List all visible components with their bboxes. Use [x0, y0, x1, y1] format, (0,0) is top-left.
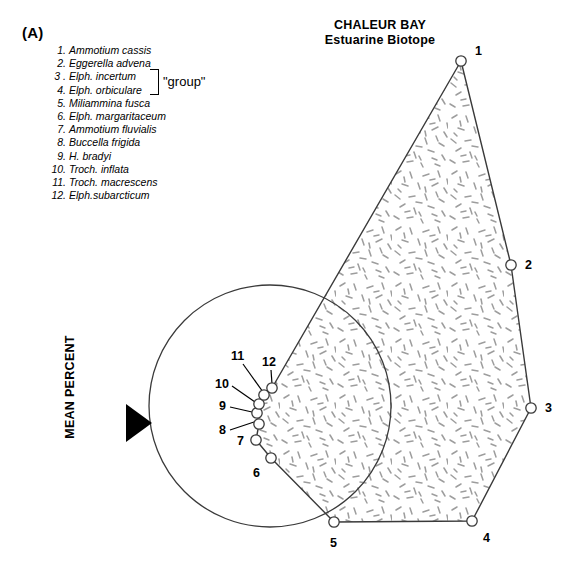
data-point-label: 12: [262, 355, 276, 369]
leader-line: [232, 386, 255, 402]
data-point-label: 5: [330, 536, 337, 550]
data-point-label: 8: [219, 423, 226, 437]
data-point-label: 3: [545, 401, 552, 415]
data-point-marker[interactable]: [506, 260, 516, 270]
data-point-label: 6: [253, 466, 260, 480]
biotope-polygon-fill: [256, 61, 531, 522]
data-point-label: 7: [237, 434, 244, 448]
leader-line: [230, 407, 252, 412]
data-point-marker[interactable]: [456, 56, 466, 66]
leader-line: [243, 364, 263, 392]
data-point-marker[interactable]: [254, 419, 264, 429]
data-point-marker[interactable]: [266, 453, 276, 463]
data-point-marker[interactable]: [329, 517, 339, 527]
data-point-label: 10: [215, 377, 229, 391]
data-point-label: 2: [525, 258, 532, 272]
data-point-label: 1: [475, 44, 482, 58]
data-point-label: 9: [219, 399, 226, 413]
triangle-right-icon: [126, 404, 152, 442]
leader-line: [271, 370, 272, 384]
data-point-marker[interactable]: [267, 383, 277, 393]
plot-canvas: 1234567 11121098: [0, 0, 578, 565]
data-point-marker[interactable]: [467, 516, 477, 526]
data-point-marker[interactable]: [526, 403, 536, 413]
data-point-label: 4: [483, 531, 490, 545]
data-point-label: 11: [231, 349, 244, 363]
figure-root: (A) CHALEUR BAY Estuarine Biotope 1.Ammo…: [0, 0, 578, 565]
data-point-marker[interactable]: [251, 435, 261, 445]
leader-line: [230, 422, 254, 430]
